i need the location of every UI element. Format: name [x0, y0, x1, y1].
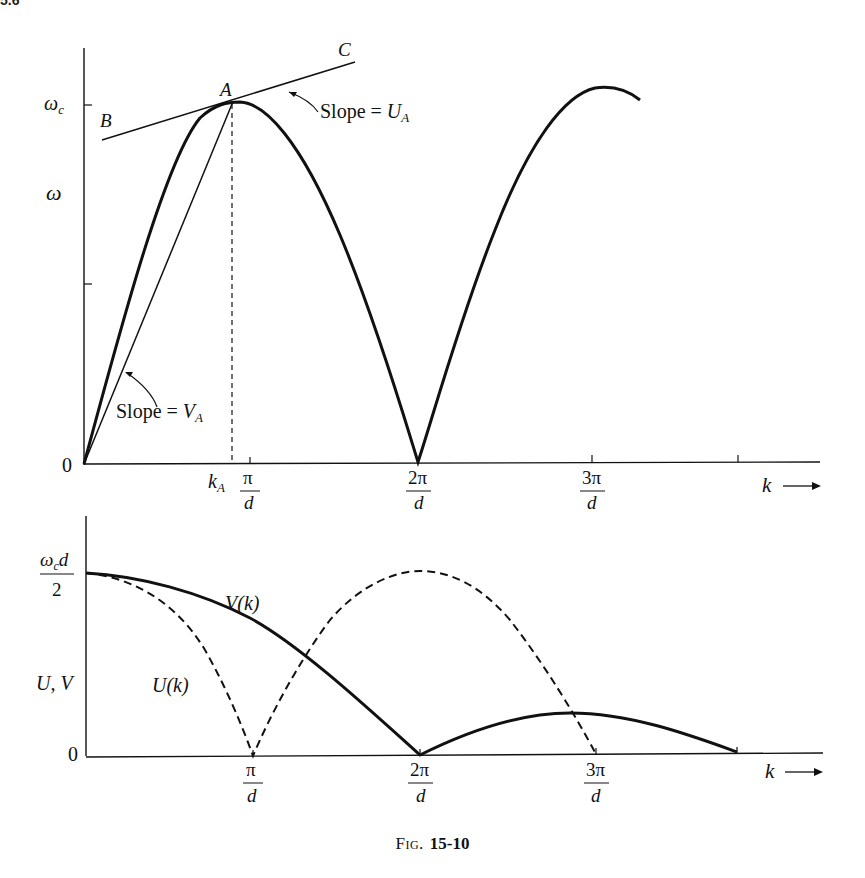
- point-C: C: [338, 39, 351, 60]
- bottom-tick-pi-num: π: [246, 759, 256, 780]
- bottom-x-axis-label: k: [765, 759, 775, 783]
- bottom-tick-3pi-den: d: [591, 785, 601, 806]
- bottom-tick-pi-den: d: [247, 785, 257, 806]
- top-tick-2pi-den: d: [414, 492, 424, 513]
- top-x-axis: [84, 462, 820, 464]
- top-tick-3pi-den: d: [587, 492, 597, 513]
- bottom-y-tick-num: ωcd: [40, 549, 69, 573]
- slope-VA-label: Slope = VA: [116, 400, 203, 425]
- figure-canvas: A B C ω ωc 0 Slope = UA Slope = VA kA π …: [0, 0, 865, 878]
- bottom-y-tick-den: 2: [52, 579, 62, 600]
- bottom-x-axis: [86, 753, 823, 757]
- bottom-tick-2pi-den: d: [416, 785, 426, 806]
- top-k-arrow-icon: [783, 482, 821, 490]
- omega-c-tick: ωc: [44, 92, 64, 117]
- top-plot-labels: A B C ω ωc 0 Slope = UA Slope = VA kA π …: [44, 39, 772, 513]
- top-origin-label: 0: [62, 454, 72, 476]
- top-y-axis-label: ω: [46, 180, 62, 205]
- top-tick-pi-num: π: [243, 467, 253, 488]
- V-curve: [86, 573, 737, 755]
- U-curve-label: U(k): [152, 674, 189, 697]
- U-curve: [86, 571, 596, 756]
- top-tick-3pi-num: 3π: [582, 467, 602, 488]
- bottom-y-axis-label: U, V: [36, 672, 75, 694]
- slope-UA-label: Slope = UA: [320, 100, 409, 125]
- point-B: B: [100, 110, 112, 131]
- top-tick-pi-den: d: [244, 492, 254, 513]
- bottom-tick-2pi-num: 2π: [410, 759, 430, 780]
- tangent-line-BC: [102, 62, 355, 140]
- figure-caption-prefix: Fig.: [395, 834, 423, 853]
- top-tick-2pi-num: 2π: [408, 467, 428, 488]
- top-x-axis-label: k: [762, 473, 772, 497]
- bottom-k-arrow-icon: [785, 768, 823, 776]
- V-curve-label: V(k): [225, 592, 260, 615]
- bottom-plot: [86, 516, 823, 757]
- bottom-plot-labels: ωcd 2 U, V 0 V(k) U(k) π d 2π d 3π d k: [36, 549, 775, 806]
- bottom-origin-label: 0: [68, 743, 78, 765]
- point-A: A: [218, 79, 232, 100]
- figure-caption: Fig.15-10: [0, 834, 865, 854]
- tick-kA: kA: [208, 470, 225, 495]
- figure-caption-number: 15-10: [430, 834, 470, 853]
- bottom-tick-3pi-num: 3π: [586, 759, 606, 780]
